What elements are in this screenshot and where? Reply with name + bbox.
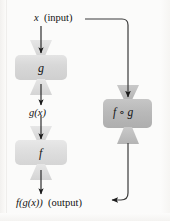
connector-fog-to-output	[112, 143, 128, 200]
label-output-expression: f(g(x))	[16, 197, 43, 208]
diagram-graphics	[0, 0, 170, 221]
node-label-g: g	[38, 62, 44, 74]
label-intermediate: g(x)	[29, 108, 46, 119]
label-output: f(g(x)) (output)	[16, 198, 82, 209]
node-label-fog: f ∘ g	[113, 107, 133, 119]
node-label-f: f	[39, 147, 42, 159]
label-output-annotation: (output)	[48, 197, 82, 208]
diagram-canvas: x (input) g(x) f(g(x)) (output) g f f ∘ …	[0, 0, 170, 221]
label-intermediate-text: g(x)	[29, 107, 46, 118]
funnel-out-of-fog	[117, 127, 139, 144]
label-input: x (input)	[34, 13, 73, 24]
label-input-annotation: (input)	[44, 12, 73, 23]
